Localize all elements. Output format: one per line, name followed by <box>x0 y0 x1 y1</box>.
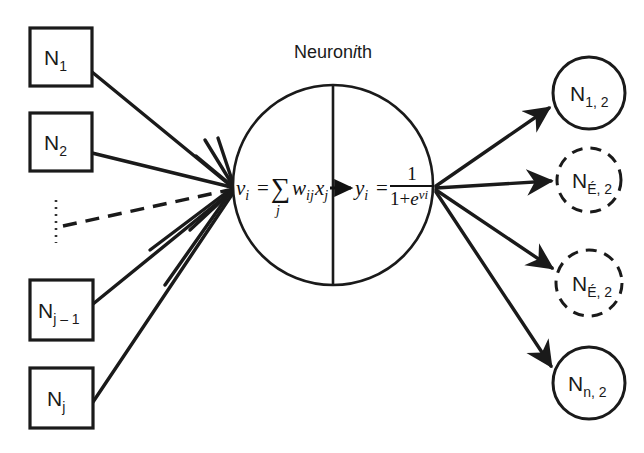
output-node-4-circle <box>553 347 625 419</box>
page-title: Neuronith <box>294 42 372 62</box>
diagram-canvas: N1 N2 Nj – 1 Nj <box>0 0 644 453</box>
input-node-1-box <box>30 28 92 86</box>
output-node-2: NÉ, 2 <box>557 148 621 212</box>
output-node-1: N1, 2 <box>553 57 625 129</box>
formula-v-equals: = <box>257 176 269 200</box>
input-node-2: N2 <box>30 113 92 171</box>
input-node-j-minus-1: Nj – 1 <box>30 280 93 340</box>
output-edges-group <box>436 108 552 366</box>
edge-output-1 <box>436 108 549 186</box>
output-node-2-circle <box>557 148 621 212</box>
edge-output-2 <box>436 181 551 188</box>
input-node-1: N1 <box>30 28 92 86</box>
edge-input-j <box>93 193 233 402</box>
formula-fraction-numerator: 1 <box>407 163 417 184</box>
neuron-diagram: N1 N2 Nj – 1 Nj <box>0 0 644 453</box>
edge-output-4 <box>436 192 551 366</box>
input-node-j: Nj <box>30 368 93 428</box>
edge-output-3 <box>436 190 552 268</box>
output-node-2-label: NÉ, 2 <box>572 169 612 197</box>
edge-input-j-minus-1 <box>93 191 232 304</box>
formula-y-equals: = <box>376 176 388 200</box>
input-node-2-box <box>30 113 92 171</box>
output-node-1-label: N1, 2 <box>570 82 609 110</box>
output-node-3-circle <box>556 250 622 316</box>
output-node-4: Nn, 2 <box>553 347 625 419</box>
output-node-3: NÉ, 2 <box>556 250 622 316</box>
output-node-3-label: NÉ, 2 <box>572 272 612 300</box>
formula-sigma-icon: ∑ <box>271 173 290 203</box>
edge-input-extra-a <box>150 189 231 250</box>
output-node-1-circle <box>553 57 625 129</box>
output-node-4-label: Nn, 2 <box>568 372 607 400</box>
